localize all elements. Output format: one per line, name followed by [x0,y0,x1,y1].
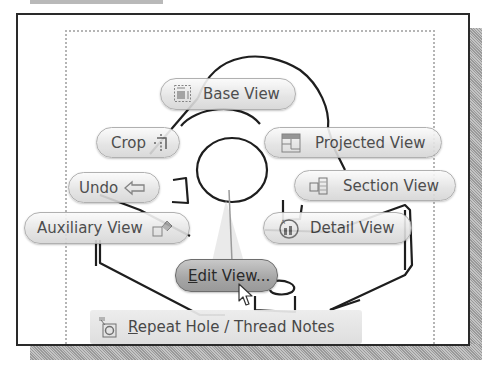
auxiliary-view-label: Auxiliary View [37,219,143,237]
undo-arrow-icon [124,180,146,196]
crop-label: Crop [111,134,146,152]
detail-view-label: Detail View [310,219,395,237]
section-view-icon [309,176,329,196]
detail-view-icon: A [278,217,300,239]
base-view-icon [173,84,193,104]
detail-view-button[interactable]: A Detail View [263,212,412,244]
undo-button[interactable]: Undo [68,172,160,203]
projected-view-button[interactable]: Projected View [264,127,442,158]
repeat-hole-thread-notes-icon [98,316,118,338]
base-view-button[interactable]: Base View [160,78,296,110]
base-view-label: Base View [203,85,280,103]
repeat-hole-thread-notes-label: Repeat Hole / Thread Notes [128,318,335,336]
edit-view-button[interactable]: Edit View... [175,259,278,292]
auxiliary-view-button[interactable]: Auxiliary View [24,212,190,244]
edit-view-label: Edit View... [188,267,270,285]
section-view-button[interactable]: Section View [294,170,456,201]
repeat-hole-thread-notes-menu-item[interactable]: Repeat Hole / Thread Notes [90,310,362,344]
crop-icon [152,133,170,153]
projected-view-icon [281,133,301,153]
undo-label: Undo [79,179,118,197]
auxiliary-view-icon [151,218,173,238]
mouse-cursor-icon [238,283,256,307]
crop-button[interactable]: Crop [96,127,180,158]
projected-view-label: Projected View [315,134,425,152]
section-view-label: Section View [343,177,439,195]
